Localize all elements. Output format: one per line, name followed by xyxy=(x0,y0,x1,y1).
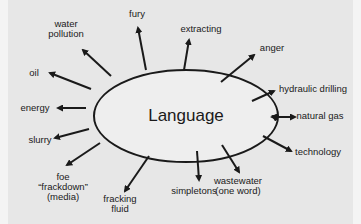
arrow-fury xyxy=(138,28,146,70)
node-energy: energy xyxy=(20,103,49,113)
arrow-technology xyxy=(263,136,291,151)
node-technology: technology xyxy=(295,147,341,157)
node-extracting: extracting xyxy=(180,24,221,34)
arrow-extracting xyxy=(184,40,189,70)
node-water-pollution: waterpollution xyxy=(48,19,83,39)
arrow-fracking-fluid xyxy=(125,156,149,191)
arrow-foe xyxy=(67,143,100,165)
diagram-canvas: Language fury extracting anger hydraulic… xyxy=(8,0,353,224)
arrow-water-pollution xyxy=(83,50,111,76)
node-fracking-fluid: frackingfluid xyxy=(103,194,136,214)
node-hydraulic-drilling: hydraulic drilling xyxy=(279,84,347,94)
node-oil: oil xyxy=(29,68,39,78)
node-wastewater: wastewater(one word) xyxy=(214,176,262,196)
node-foe-frackdown: foe“frackdown”(media) xyxy=(38,172,88,202)
node-anger: anger xyxy=(260,43,284,53)
node-slurry: slurry xyxy=(28,135,51,145)
node-simpletons: simpletons xyxy=(171,186,216,196)
arrow-slurry xyxy=(55,129,89,138)
node-natural-gas: natural gas xyxy=(296,111,343,121)
arrow-oil xyxy=(50,73,91,89)
node-fury: fury xyxy=(129,9,145,19)
center-label: Language xyxy=(148,106,224,126)
